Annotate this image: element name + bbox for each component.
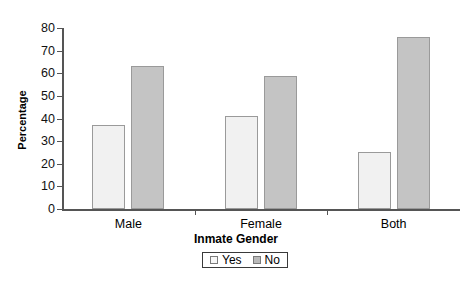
x-axis-label-male: Male: [78, 217, 178, 231]
bar-male-no: [131, 66, 164, 209]
gray-swatch-icon: [253, 256, 261, 264]
x-axis-label-female: Female: [211, 217, 311, 231]
y-axis-tick-label: 60: [29, 67, 55, 80]
y-axis-title: Percentage: [16, 65, 28, 175]
y-axis-tick-label: 80: [29, 22, 55, 35]
legend-item-no: No: [253, 254, 280, 266]
x-axis-line: [62, 209, 460, 211]
legend-item-yes: Yes: [210, 254, 242, 266]
y-axis-tick-label: 20: [29, 158, 55, 171]
legend-label: Yes: [222, 254, 242, 266]
bar-both-yes: [358, 152, 391, 209]
y-axis-tick-label: 0: [29, 203, 55, 216]
legend-label: No: [265, 254, 280, 266]
y-axis-tick-label: 40: [29, 113, 55, 126]
chart-legend: YesNo: [202, 252, 288, 268]
light-swatch-icon: [210, 256, 218, 264]
y-axis-tick-label: 30: [29, 135, 55, 148]
x-axis-group-separator: [195, 209, 196, 215]
bar-male-yes: [92, 125, 125, 209]
bar-both-no: [397, 37, 430, 209]
x-axis-label-both: Both: [344, 217, 444, 231]
x-axis-title: Inmate Gender: [0, 232, 472, 246]
y-axis-tick-label: 70: [29, 45, 55, 58]
x-axis-group-separator: [327, 209, 328, 215]
bar-female-yes: [225, 116, 258, 209]
bar-female-no: [264, 76, 297, 209]
bar-chart: Percentage 01020304050607080 MaleFemaleB…: [0, 0, 472, 290]
y-axis-tick-label: 50: [29, 90, 55, 103]
plot-area: [62, 28, 460, 209]
y-axis-tick-label: 10: [29, 180, 55, 193]
